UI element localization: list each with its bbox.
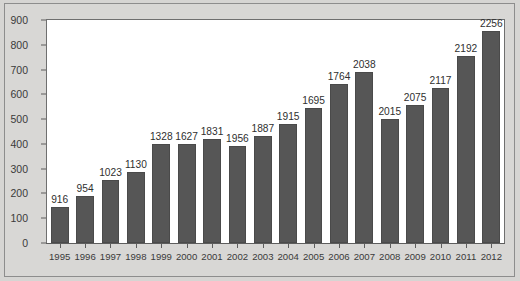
x-tick-mark	[415, 244, 416, 248]
x-tick-label: 2001	[201, 251, 222, 262]
bar-value-label: 1764	[328, 71, 351, 82]
y-tick-mark	[41, 119, 46, 120]
bar-value-label: 1130	[125, 159, 147, 170]
x-tick-mark	[60, 244, 61, 248]
bar-value-label: 2075	[404, 92, 427, 103]
x-tick-mark	[136, 244, 137, 248]
y-tick-label: 800	[10, 40, 28, 50]
bar-value-label: 2256	[480, 18, 503, 29]
bar	[102, 180, 120, 243]
x-tick-label: 2005	[303, 251, 324, 262]
x-tick-mark	[263, 244, 264, 248]
x-tick-mark	[314, 244, 315, 248]
bar-value-label: 2038	[353, 59, 376, 70]
x-tick-label: 1995	[49, 251, 70, 262]
x-tick-label: 2002	[227, 251, 248, 262]
y-tick-label: 300	[10, 164, 28, 174]
y-tick-label: 700	[10, 65, 28, 75]
bar	[254, 136, 272, 243]
y-tick-mark	[41, 218, 46, 219]
x-tick-label: 2006	[328, 251, 349, 262]
x-tick-mark	[466, 244, 467, 248]
bar-value-label: 916	[51, 194, 68, 205]
bar-value-label: 1887	[251, 123, 274, 134]
bar	[482, 31, 500, 243]
bar-value-label: 1831	[201, 126, 224, 137]
x-tick-label: 1996	[74, 251, 95, 262]
x-tick-label: 1999	[151, 251, 172, 262]
bar	[381, 119, 399, 243]
bar-value-label: 2015	[378, 106, 401, 117]
bar-value-label: 954	[77, 183, 94, 194]
y-tick-label: 0	[22, 238, 28, 248]
x-tick-label: 2010	[430, 251, 451, 262]
y-tick-label: 200	[10, 188, 28, 198]
bar	[406, 105, 424, 243]
x-tick-mark	[441, 244, 442, 248]
bar	[457, 56, 475, 243]
bar-value-label: 1915	[277, 111, 300, 122]
x-tick-label: 1997	[100, 251, 121, 262]
bar-value-label: 1627	[175, 131, 198, 142]
bar	[330, 84, 348, 243]
x-tick-mark	[237, 244, 238, 248]
x-tick-label: 2004	[278, 251, 299, 262]
plot-area	[47, 20, 504, 243]
y-tick-mark	[41, 20, 46, 21]
x-tick-mark	[491, 244, 492, 248]
y-tick-mark	[41, 44, 46, 45]
bar-value-label: 2192	[455, 43, 478, 54]
bar	[152, 144, 170, 243]
bar	[76, 196, 94, 243]
x-axis-baseline	[46, 243, 505, 244]
x-tick-label: 1998	[125, 251, 146, 262]
bar	[127, 172, 145, 243]
y-tick-mark	[41, 69, 46, 70]
x-tick-mark	[390, 244, 391, 248]
chart-figure: 0100200300400500600700800900 91619959541…	[0, 0, 520, 281]
bar	[355, 72, 373, 243]
x-tick-mark	[212, 244, 213, 248]
bar-value-label: 1695	[302, 95, 325, 106]
x-tick-mark	[85, 244, 86, 248]
y-tick-label: 600	[10, 89, 28, 99]
y-tick-label: 400	[10, 139, 28, 149]
y-tick-mark	[41, 143, 46, 144]
x-tick-mark	[110, 244, 111, 248]
x-tick-label: 2009	[404, 251, 425, 262]
x-tick-label: 2012	[481, 251, 502, 262]
x-tick-mark	[161, 244, 162, 248]
y-tick-label: 900	[10, 15, 28, 25]
x-tick-label: 2008	[379, 251, 400, 262]
y-tick-mark	[41, 94, 46, 95]
bar	[229, 146, 247, 243]
bar	[279, 124, 297, 243]
bar	[432, 88, 450, 243]
bar	[51, 207, 69, 243]
y-axis: 0100200300400500600700800900	[4, 0, 42, 281]
x-tick-label: 2007	[354, 251, 375, 262]
y-tick-mark	[41, 193, 46, 194]
x-tick-label: 2003	[252, 251, 273, 262]
x-tick-mark	[339, 244, 340, 248]
bar	[203, 139, 221, 243]
x-tick-mark	[187, 244, 188, 248]
bar-value-label: 2117	[430, 75, 452, 86]
x-tick-label: 2000	[176, 251, 197, 262]
bar-value-label: 1023	[99, 167, 122, 178]
y-tick-mark	[41, 168, 46, 169]
x-tick-mark	[288, 244, 289, 248]
bar-value-label: 1956	[226, 133, 249, 144]
x-tick-label: 2011	[456, 251, 477, 262]
x-tick-mark	[364, 244, 365, 248]
bar-value-label: 1328	[150, 131, 173, 142]
bar	[178, 144, 196, 243]
y-tick-label: 100	[10, 213, 28, 223]
y-tick-label: 500	[10, 114, 28, 124]
bar	[305, 108, 323, 243]
y-tick-mark	[41, 243, 46, 244]
